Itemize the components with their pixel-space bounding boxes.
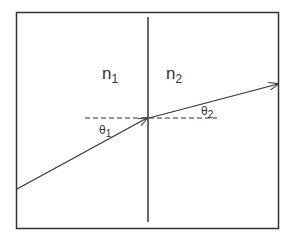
refracted-ray xyxy=(149,84,278,118)
incident-ray xyxy=(17,118,147,189)
medium-2-label: n2 xyxy=(166,64,182,86)
medium-1-label: n1 xyxy=(102,64,118,86)
angle-refraction-label: θ2 xyxy=(201,104,214,120)
refraction-diagram: n1 n2 θ1 θ2 xyxy=(0,0,291,237)
angle-incidence-label: θ1 xyxy=(99,123,112,139)
